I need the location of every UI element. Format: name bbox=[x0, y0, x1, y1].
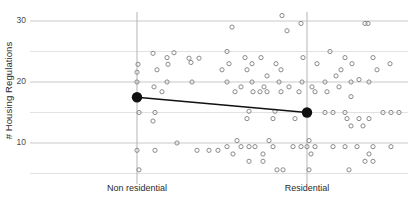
scatter-point bbox=[388, 62, 392, 66]
scatter-point bbox=[366, 21, 370, 25]
scatter-point bbox=[155, 68, 159, 72]
scatter-point bbox=[313, 145, 317, 149]
scatter-point bbox=[285, 29, 289, 33]
scatter-point bbox=[197, 56, 201, 60]
mean-marker bbox=[132, 92, 142, 102]
scatter-point bbox=[247, 145, 251, 149]
scatter-point bbox=[349, 124, 353, 128]
scatter-point bbox=[343, 145, 347, 149]
scatter-point bbox=[262, 85, 266, 89]
scatter-point bbox=[299, 145, 303, 149]
scatter-point bbox=[259, 56, 263, 60]
scatter-point bbox=[371, 159, 375, 163]
scatter-point bbox=[271, 117, 275, 121]
scatter-point bbox=[247, 159, 251, 163]
scatter-point bbox=[350, 62, 354, 66]
scatter-point bbox=[301, 56, 305, 60]
scatter-point bbox=[216, 148, 220, 152]
scatter-point bbox=[187, 56, 191, 60]
scatter-point bbox=[357, 117, 361, 121]
scatter-point bbox=[375, 68, 379, 72]
scatter-point bbox=[233, 90, 237, 94]
scatter-point bbox=[339, 68, 343, 72]
y-tick-label: 30 bbox=[4, 15, 26, 25]
mean-marker bbox=[302, 107, 312, 117]
scatter-point bbox=[310, 85, 314, 89]
scatter-point bbox=[347, 168, 351, 172]
scatter-point bbox=[251, 90, 255, 94]
scatter-point bbox=[265, 90, 269, 94]
scatter-point bbox=[253, 145, 257, 149]
scatter-point bbox=[367, 117, 371, 121]
scatter-point bbox=[160, 90, 164, 94]
plot-area bbox=[0, 0, 416, 199]
x-tick-label: Non residential bbox=[77, 183, 197, 193]
scatter-point bbox=[299, 21, 303, 25]
x-tick-label: Residential bbox=[247, 183, 367, 193]
scatter-point bbox=[166, 62, 170, 66]
scatter-point bbox=[361, 124, 365, 128]
scatter-point bbox=[315, 62, 319, 66]
scatter-point bbox=[207, 148, 211, 152]
scatter-point bbox=[307, 168, 311, 172]
scatter-point bbox=[343, 56, 347, 60]
scatter-point bbox=[287, 85, 291, 89]
scatter-point bbox=[239, 145, 243, 149]
scatter-point bbox=[371, 56, 375, 60]
scatter-point bbox=[267, 138, 271, 142]
scatter-point bbox=[265, 74, 269, 78]
scatter-point bbox=[189, 60, 193, 64]
scatter-point bbox=[258, 90, 262, 94]
scatter-point bbox=[245, 68, 249, 72]
mean-connector-line bbox=[137, 97, 307, 112]
scatter-point bbox=[281, 168, 285, 172]
scatter-point bbox=[261, 152, 265, 156]
scatter-point bbox=[227, 62, 231, 66]
scatter-point bbox=[307, 138, 311, 142]
scatter-point bbox=[371, 145, 375, 149]
scatter-point bbox=[334, 74, 338, 78]
scatter-point bbox=[291, 145, 295, 149]
scatter-point bbox=[345, 117, 349, 121]
scatter-point bbox=[349, 95, 353, 99]
y-axis-label-wrap: # Housing Regulations bbox=[0, 0, 19, 180]
y-tick-label: 10 bbox=[4, 137, 26, 147]
y-tick-label: 20 bbox=[4, 76, 26, 86]
scatter-point bbox=[313, 90, 317, 94]
scatter-point bbox=[293, 117, 297, 121]
scatter-point bbox=[230, 25, 234, 29]
scatter-chart: # Housing Regulations 102030 Non residen… bbox=[0, 0, 416, 199]
scatter-point bbox=[195, 148, 199, 152]
scatter-point bbox=[367, 152, 371, 156]
scatter-point bbox=[279, 90, 283, 94]
scatter-point bbox=[297, 90, 301, 94]
scatter-point bbox=[261, 159, 265, 163]
scatter-point bbox=[337, 85, 341, 89]
scatter-point bbox=[153, 148, 157, 152]
scatter-point bbox=[274, 62, 278, 66]
scatter-point bbox=[355, 145, 359, 149]
scatter-point bbox=[137, 168, 141, 172]
scatter-point bbox=[225, 145, 229, 149]
scatter-point bbox=[151, 119, 155, 123]
scatter-point bbox=[231, 152, 235, 156]
scatter-point bbox=[245, 117, 249, 121]
scatter-point bbox=[235, 138, 239, 142]
scatter-point bbox=[271, 145, 275, 149]
scatter-point bbox=[357, 77, 361, 81]
scatter-point bbox=[220, 68, 224, 72]
scatter-point bbox=[239, 85, 243, 89]
scatter-point bbox=[389, 145, 393, 149]
scatter-point bbox=[331, 145, 335, 149]
scatter-point bbox=[275, 168, 279, 172]
scatter-point bbox=[280, 13, 284, 17]
scatter-point bbox=[279, 68, 283, 72]
scatter-point bbox=[152, 85, 156, 89]
scatter-point bbox=[325, 90, 329, 94]
y-axis-label: # Housing Regulations bbox=[4, 41, 15, 139]
scatter-point bbox=[165, 56, 169, 60]
scatter-point bbox=[243, 56, 247, 60]
scatter-point bbox=[250, 62, 254, 66]
scatter-point bbox=[363, 159, 367, 163]
scatter-point bbox=[309, 152, 313, 156]
